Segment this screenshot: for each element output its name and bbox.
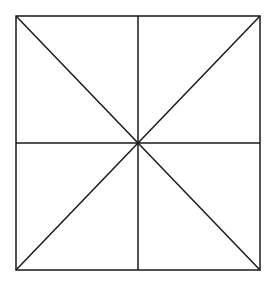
divided-square-diagram (0, 0, 270, 283)
dividing-lines (16, 16, 260, 270)
